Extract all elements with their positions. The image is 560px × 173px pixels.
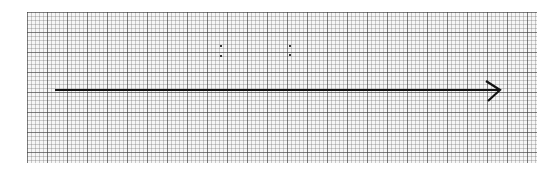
right-arrow-icon [0, 0, 560, 173]
